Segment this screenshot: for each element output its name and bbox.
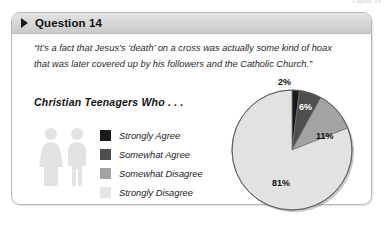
card-header: Question 14 (12, 13, 371, 34)
triangle-right-icon (21, 18, 28, 28)
legend-item: Strongly Agree (100, 126, 230, 145)
male-female-pictogram-icon (34, 125, 92, 187)
question-quote-text: “It’s a fact that Jesus’s ‘death’ on a c… (34, 41, 334, 72)
pie-chart: 2% 6% 11% 81% (228, 74, 364, 219)
legend-item: Somewhat Agree (100, 145, 230, 164)
legend-label: Somewhat Agree (119, 150, 190, 160)
pie-value-label: 6% (299, 102, 312, 112)
legend-label: Strongly Disagree (119, 188, 193, 198)
legend-label: Somewhat Disagree (119, 169, 203, 179)
chart-legend: Strongly Agree Somewhat Agree Somewhat D… (100, 126, 230, 202)
pie-value-label: 2% (278, 77, 291, 87)
legend-label: Strongly Agree (119, 131, 180, 141)
pie-value-label: 11% (316, 131, 334, 141)
legend-swatch-strongly-disagree (100, 187, 111, 198)
legend-item: Somewhat Disagree (100, 164, 230, 183)
pie-svg (228, 74, 364, 219)
chart-subtitle: Christian Teenagers Who . . . (34, 96, 184, 108)
figure-caption: Figure 14 (353, 0, 381, 4)
legend-swatch-strongly-agree (100, 130, 111, 141)
page-title: Question 14 (35, 17, 102, 29)
legend-item: Strongly Disagree (100, 183, 230, 202)
pie-value-label: 81% (272, 178, 290, 188)
legend-swatch-somewhat-agree (100, 149, 111, 160)
legend-swatch-somewhat-disagree (100, 168, 111, 179)
